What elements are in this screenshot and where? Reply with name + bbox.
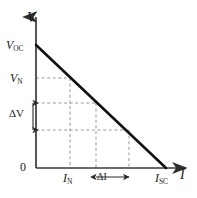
isc-label: ISC: [155, 172, 168, 184]
in-subscript: N: [67, 177, 72, 186]
isc-subscript: SC: [159, 177, 168, 186]
y-axis-label: V: [27, 11, 36, 25]
voc-label: VOC: [6, 39, 23, 51]
plot-area: [0, 0, 197, 198]
in-label: IN: [63, 172, 72, 184]
vn-subscript: N: [17, 77, 22, 86]
origin-label: 0: [20, 161, 26, 173]
horizontal-guide-lines: [36, 78, 129, 130]
voc-subscript: OC: [13, 44, 23, 53]
delta-i-label: ΔI: [97, 172, 107, 182]
x-axis-label: I: [180, 168, 185, 182]
iv-curve: [36, 45, 166, 168]
iv-characteristic-figure: V I VOC VN ΔV 0 IN ΔI ISC: [0, 0, 197, 198]
vn-label: VN: [10, 72, 23, 84]
delta-v-label: ΔV: [9, 108, 24, 119]
